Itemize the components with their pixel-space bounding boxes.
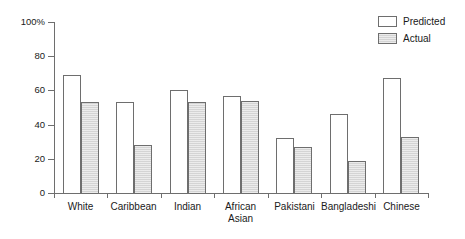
y-axis-tick-label: 0 [40, 188, 45, 198]
y-axis-tick [48, 125, 54, 126]
x-axis-tick [428, 193, 429, 198]
legend-label-actual: Actual [403, 32, 431, 45]
x-axis-tick [214, 193, 215, 198]
bar-actual-white [81, 102, 99, 194]
legend-label-predicted: Predicted [403, 15, 445, 28]
bar-chart: 100%806040200WhiteCaribbeanIndianAfrican… [0, 0, 465, 239]
bar-predicted-caribbean [116, 102, 134, 194]
x-axis-category-label: White [54, 201, 107, 213]
y-axis-tick [48, 159, 54, 160]
x-axis-tick [107, 193, 108, 198]
legend-item-predicted: Predicted [378, 15, 462, 30]
x-axis-tick [321, 193, 322, 198]
legend-swatch-actual [378, 33, 397, 44]
bar-actual-pakistani [294, 147, 312, 194]
x-axis-tick [375, 193, 376, 198]
legend-swatch-predicted [378, 16, 397, 27]
y-axis-tick [48, 90, 54, 91]
bar-predicted-bangladeshi [330, 114, 348, 194]
y-axis-tick-label: 100% [21, 17, 45, 27]
y-axis-tick-label: 80 [34, 51, 45, 61]
x-axis-tick [54, 193, 55, 198]
bar-actual-indian [188, 102, 206, 194]
bar-predicted-african-asian [223, 96, 241, 194]
bar-actual-bangladeshi [348, 161, 366, 194]
y-axis-tick-label: 20 [34, 154, 45, 164]
legend-item-actual: Actual [378, 32, 462, 47]
bar-actual-caribbean [134, 145, 152, 194]
x-axis-tick [161, 193, 162, 198]
y-axis-tick-label: 40 [34, 120, 45, 130]
x-axis-category-label: Indian [161, 201, 214, 213]
x-axis-category-label: Chinese [375, 201, 428, 213]
x-axis-category-label: Caribbean [107, 201, 160, 213]
x-axis-category-label: African Asian [214, 201, 267, 224]
y-axis-tick [48, 56, 54, 57]
x-axis-category-label: Bangladeshi [321, 201, 374, 213]
bar-predicted-white [63, 75, 81, 194]
bar-predicted-chinese [383, 78, 401, 194]
x-axis-tick [268, 193, 269, 198]
chart-legend: Predicted Actual [378, 15, 462, 49]
y-axis-tick-label: 60 [34, 85, 45, 95]
y-axis-tick [48, 22, 54, 23]
bar-predicted-pakistani [276, 138, 294, 194]
y-axis-line [54, 22, 55, 194]
bar-actual-african-asian [241, 101, 259, 194]
x-axis-category-label: Pakistani [268, 201, 321, 213]
bar-predicted-indian [170, 90, 188, 194]
bar-actual-chinese [401, 137, 419, 194]
